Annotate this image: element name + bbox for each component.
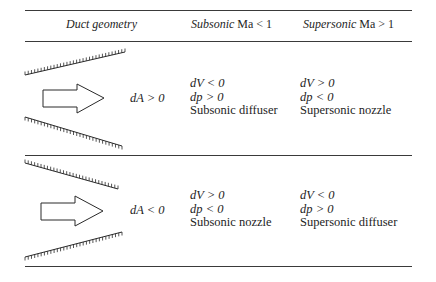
supersonic-cell-row2: dV < 0 dp > 0 Supersonic diffuser (300, 189, 397, 230)
device-label: Supersonic diffuser (300, 216, 397, 230)
velocity-change: dV > 0 (190, 189, 272, 203)
pressure-change: dp < 0 (300, 91, 391, 105)
pressure-change: dp < 0 (190, 203, 272, 217)
flow-arrow-icon (41, 196, 103, 226)
velocity-change: dV > 0 (300, 77, 391, 91)
converging-top-wall-icon (25, 163, 118, 189)
area-change-row2: dA < 0 (130, 203, 165, 218)
flow-arrow-icon (43, 84, 104, 113)
velocity-change: dV < 0 (190, 77, 278, 91)
device-label: Subsonic nozzle (190, 216, 272, 230)
subsonic-cell-row1: dV < 0 dp > 0 Subsonic diffuser (190, 77, 278, 118)
subsonic-cell-row2: dV > 0 dp < 0 Subsonic nozzle (190, 189, 272, 230)
pressure-change: dp > 0 (300, 203, 397, 217)
pressure-change: dp > 0 (190, 91, 278, 105)
diverging-top-wall-icon (25, 52, 125, 75)
area-change-row1: dA > 0 (130, 91, 165, 106)
duct-geometry-diagrams (0, 0, 436, 282)
device-label: Supersonic nozzle (300, 104, 391, 118)
device-label: Subsonic diffuser (190, 104, 278, 118)
velocity-change: dV < 0 (300, 189, 397, 203)
supersonic-cell-row1: dV > 0 dp < 0 Supersonic nozzle (300, 77, 391, 118)
